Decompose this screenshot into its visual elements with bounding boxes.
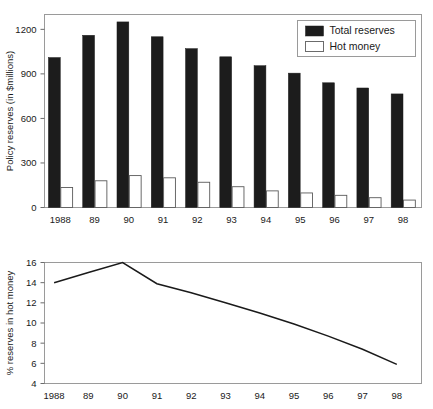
bar-chart-x-tick-label-89: 89 bbox=[89, 214, 100, 225]
bar-hot-money-93 bbox=[232, 187, 244, 208]
line-chart-x-tick-label-95: 95 bbox=[289, 390, 300, 401]
line-chart-x-tick-label-98: 98 bbox=[392, 390, 403, 401]
bar-total-reserves-91 bbox=[151, 37, 163, 208]
line-series-hot-money-share bbox=[54, 263, 397, 365]
line-chart-plot-frame bbox=[45, 263, 422, 384]
line-chart-y-tick-label: 12 bbox=[26, 297, 37, 308]
line-chart-x-tick-label-92: 92 bbox=[186, 390, 197, 401]
line-chart-x-tick-label-93: 93 bbox=[220, 390, 231, 401]
line-chart-x-tick-label-90: 90 bbox=[117, 390, 128, 401]
bar-chart-x-tick-label-96: 96 bbox=[329, 214, 340, 225]
line-chart-y-tick-label: 8 bbox=[31, 338, 36, 349]
bar-total-reserves-1988 bbox=[48, 58, 60, 208]
line-chart-x-tick-label-94: 94 bbox=[254, 390, 265, 401]
bar-chart-x-tick-label-1988: 1988 bbox=[50, 214, 71, 225]
bar-hot-money-98 bbox=[404, 200, 416, 207]
line-chart-x-tick-label-89: 89 bbox=[83, 390, 94, 401]
line-chart-y-tick-label: 14 bbox=[26, 277, 37, 288]
bar-chart-y-axis-title: Policy reserves (in $millions) bbox=[4, 51, 15, 171]
line-chart-y-axis-title: % reserves in hot money bbox=[4, 270, 15, 375]
bar-chart-x-tick-label-91: 91 bbox=[158, 214, 169, 225]
bar-total-reserves-93 bbox=[220, 57, 232, 208]
bar-chart-y-tick-label: 300 bbox=[21, 157, 37, 168]
line-chart-x-tick-label-96: 96 bbox=[323, 390, 334, 401]
bar-chart-y-tick-label: 0 bbox=[31, 202, 36, 213]
bar-chart-x-tick-label-92: 92 bbox=[192, 214, 203, 225]
line-chart-x-tick-label-97: 97 bbox=[357, 390, 368, 401]
bar-hot-money-90 bbox=[129, 176, 141, 208]
legend-swatch-hot-money bbox=[306, 42, 324, 52]
line-chart-x-tick-label-1988: 1988 bbox=[44, 390, 65, 401]
chart-canvas: 03006009001200Policy reserves (in $milli… bbox=[0, 0, 433, 409]
bar-total-reserves-94 bbox=[254, 66, 266, 208]
bar-total-reserves-89 bbox=[83, 35, 95, 207]
bar-chart-x-tick-label-93: 93 bbox=[226, 214, 237, 225]
bar-total-reserves-97 bbox=[357, 88, 369, 208]
line-chart-y-tick-label: 4 bbox=[31, 378, 36, 389]
bar-hot-money-96 bbox=[335, 195, 347, 207]
bar-total-reserves-92 bbox=[186, 49, 198, 208]
bar-chart-x-tick-label-95: 95 bbox=[295, 214, 306, 225]
bar-total-reserves-98 bbox=[391, 94, 403, 208]
bar-hot-money-94 bbox=[266, 191, 278, 208]
line-chart-y-tick-label: 10 bbox=[26, 317, 37, 328]
legend-swatch-total-reserves bbox=[306, 26, 324, 36]
bar-chart-x-tick-label-90: 90 bbox=[124, 214, 135, 225]
bar-hot-money-1988 bbox=[61, 187, 73, 207]
line-chart-y-tick-label: 6 bbox=[31, 358, 36, 369]
legend-label-hot-money: Hot money bbox=[330, 40, 382, 52]
bar-hot-money-89 bbox=[95, 181, 107, 208]
line-chart-x-tick-label-91: 91 bbox=[152, 390, 163, 401]
bar-chart-x-tick-label-98: 98 bbox=[398, 214, 409, 225]
bar-total-reserves-96 bbox=[323, 83, 335, 208]
legend-label-total-reserves: Total reserves bbox=[330, 24, 395, 36]
bar-chart-x-tick-label-94: 94 bbox=[261, 214, 272, 225]
bar-hot-money-97 bbox=[369, 198, 381, 208]
bar-chart-y-tick-label: 1200 bbox=[15, 24, 36, 35]
bar-total-reserves-90 bbox=[117, 22, 129, 208]
bar-hot-money-91 bbox=[164, 178, 176, 208]
line-chart-y-tick-label: 16 bbox=[26, 257, 37, 268]
bar-hot-money-92 bbox=[198, 182, 210, 207]
bar-chart-x-tick-label-97: 97 bbox=[363, 214, 374, 225]
bar-chart-y-tick-label: 900 bbox=[21, 68, 37, 79]
bar-total-reserves-95 bbox=[288, 73, 300, 207]
bar-hot-money-95 bbox=[301, 193, 313, 208]
figure-container: 03006009001200Policy reserves (in $milli… bbox=[0, 0, 433, 409]
bar-chart-y-tick-label: 600 bbox=[21, 113, 37, 124]
